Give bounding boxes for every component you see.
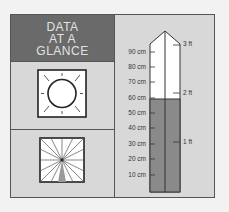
cm-label-30: 30 cm [128, 140, 146, 147]
ft-label-1: 1 ft [183, 138, 192, 145]
title-header: DATA AT A GLANCE [11, 15, 114, 62]
sun-panel [11, 62, 114, 130]
cm-label-60: 60 cm [128, 94, 146, 101]
cm-label-90: 90 cm [128, 48, 146, 55]
height-gauge [115, 15, 214, 197]
left-column: DATA AT A GLANCE [11, 15, 115, 197]
cm-label-50: 50 cm [128, 109, 146, 116]
cm-label-80: 80 cm [128, 63, 146, 70]
sun-in-square-icon [11, 62, 114, 130]
cm-label-10: 10 cm [128, 171, 146, 178]
shade-panel [11, 130, 114, 198]
ft-label-3: 3 ft [183, 40, 192, 47]
ft-label-2: 2 ft [183, 89, 192, 96]
data-at-a-glance-card: DATA AT A GLANCE [10, 14, 215, 198]
sunburst-square-icon [11, 130, 114, 198]
title-line-3: GLANCE [11, 45, 114, 57]
cm-label-20: 20 cm [128, 155, 146, 162]
cm-label-70: 70 cm [128, 78, 146, 85]
measurement-column: 90 cm 80 cm 70 cm 60 cm 50 cm 40 cm 30 c… [115, 15, 214, 197]
cm-label-40: 40 cm [128, 124, 146, 131]
